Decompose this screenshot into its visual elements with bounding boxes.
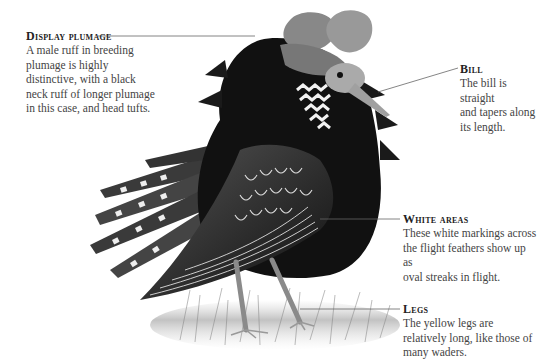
annotation-text: A male ruff in breeding plumage is highl… [26, 43, 186, 116]
annotation-legs: Legs The yellow legs are relatively long… [403, 302, 538, 360]
annotation-title: White areas [403, 212, 538, 226]
annotation-white-areas: White areas These white markings across … [403, 212, 538, 284]
head-tufts [280, 10, 372, 75]
annotation-title: Display plumage [26, 29, 186, 43]
annotation-text: These white markings across the flight f… [403, 226, 538, 284]
annotation-bill: Bill The bill is straight and tapers alo… [460, 62, 538, 134]
grass [150, 288, 400, 350]
annotation-text: The yellow legs are relatively long, lik… [403, 316, 538, 360]
annotation-display-plumage: Display plumage A male ruff in breeding … [26, 29, 186, 116]
annotation-text: The bill is straight and tapers along it… [460, 76, 538, 134]
annotation-title: Legs [403, 302, 538, 316]
annotation-title: Bill [460, 62, 538, 76]
